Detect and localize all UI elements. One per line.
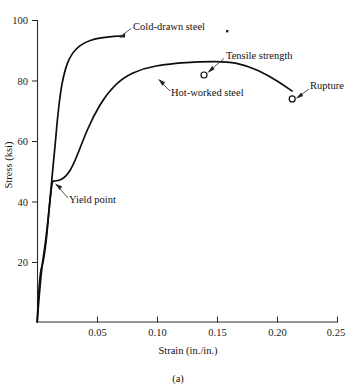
annotation-cold-drawn-steel: Cold-drawn steel <box>119 21 205 38</box>
x-tick-label-010: 0.10 <box>148 327 166 338</box>
yield-point-label: Yield point <box>69 194 116 205</box>
cold-drawn-steel-label: Cold-drawn steel <box>133 21 205 32</box>
annotation-yield-point: Yield point <box>55 183 116 205</box>
cold-drawn-steel-leader <box>121 29 132 37</box>
x-tick-label-005: 0.05 <box>88 327 106 338</box>
tensile-strength-marker <box>201 72 207 78</box>
x-tick-label-020: 0.20 <box>268 327 286 338</box>
curve-hot-worked-steel <box>37 62 292 322</box>
x-tick-label-015: 0.15 <box>208 327 226 338</box>
figure-caption: (a) <box>172 373 184 385</box>
y-tick-label-60: 60 <box>18 136 29 147</box>
x-tick-label-025: 0.25 <box>327 327 345 338</box>
rupture-label: Rupture <box>310 80 344 91</box>
yield-point-arrowhead <box>55 183 62 190</box>
annotation-hot-worked-steel: Hot-worked steel <box>158 79 243 98</box>
y-tick-label-20: 20 <box>18 257 29 268</box>
y-tick-label-80: 80 <box>18 76 29 87</box>
annotation-rupture: Rupture <box>296 80 344 99</box>
hot-worked-steel-label: Hot-worked steel <box>171 87 244 98</box>
y-axis-title: Stress (ksi) <box>3 141 15 188</box>
rupture-arrowhead <box>296 92 303 98</box>
x-axis-title: Strain (in./in.) <box>158 345 218 357</box>
scan-speck <box>226 30 228 32</box>
annotation-tensile-strength: Tensile strength <box>207 50 293 73</box>
stress-strain-figure: 100 80 60 40 20 0.05 0.10 0.15 0.20 0.25… <box>0 0 356 390</box>
tensile-strength-arrowhead <box>207 66 214 73</box>
stress-strain-chart: 100 80 60 40 20 0.05 0.10 0.15 0.20 0.25… <box>0 0 356 390</box>
tensile-strength-label: Tensile strength <box>226 50 293 61</box>
rupture-marker <box>289 96 295 102</box>
y-tick-label-40: 40 <box>18 197 29 208</box>
curve-cold-drawn-steel <box>37 36 122 322</box>
y-tick-label-100: 100 <box>12 15 28 26</box>
